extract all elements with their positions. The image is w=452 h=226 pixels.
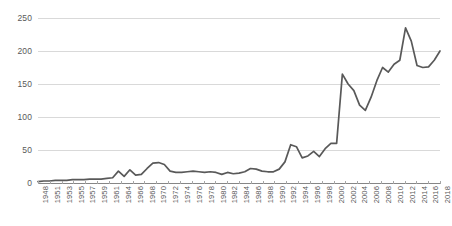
x-axis: 1948195119531955195719591961196419661968… <box>38 184 440 226</box>
x-tick-mark <box>168 181 169 184</box>
x-tick-label: 1996 <box>313 186 322 203</box>
x-tick-mark <box>251 181 252 184</box>
x-tick-mark <box>121 181 122 184</box>
x-tick-label: 1990 <box>278 186 287 203</box>
x-tick-label: 1951 <box>53 186 62 203</box>
x-tick-mark <box>369 181 370 184</box>
x-tick-label: 1955 <box>77 186 86 203</box>
plot-area <box>38 18 440 183</box>
x-tick-mark <box>381 181 382 184</box>
x-tick-label: 1957 <box>88 186 97 203</box>
x-tick-label: 1998 <box>325 186 334 203</box>
series-line <box>38 18 440 183</box>
x-tick-mark <box>357 181 358 184</box>
y-tick-label: 0 <box>27 178 32 188</box>
x-tick-mark <box>274 181 275 184</box>
x-tick-label: 1961 <box>112 186 121 203</box>
x-tick-mark <box>298 181 299 184</box>
y-tick-label: 150 <box>18 79 32 89</box>
x-tick-mark <box>345 181 346 184</box>
x-tick-label: 1976 <box>195 186 204 203</box>
x-tick-mark <box>239 181 240 184</box>
x-tick-label: 1972 <box>171 186 180 203</box>
x-tick-label: 1982 <box>230 186 239 203</box>
x-tick-label: 1992 <box>289 186 298 203</box>
x-tick-label: 1948 <box>41 186 50 203</box>
y-tick-label: 100 <box>18 112 32 122</box>
x-tick-mark <box>322 181 323 184</box>
x-tick-label: 2016 <box>431 186 440 203</box>
x-tick-mark <box>334 181 335 184</box>
x-tick-label: 1978 <box>207 186 216 203</box>
x-tick-mark <box>227 181 228 184</box>
x-tick-mark <box>38 181 39 184</box>
y-tick-label: 250 <box>18 13 32 23</box>
x-tick-mark <box>144 181 145 184</box>
x-tick-label: 1994 <box>301 186 310 203</box>
x-tick-mark <box>310 181 311 184</box>
x-tick-mark <box>405 181 406 184</box>
series-polyline <box>38 28 440 182</box>
x-tick-label: 1953 <box>65 186 74 203</box>
x-tick-label: 2012 <box>408 186 417 203</box>
x-tick-label: 2014 <box>420 186 429 203</box>
line-chart: 050100150200250 194819511953195519571959… <box>0 0 452 226</box>
x-tick-mark <box>50 181 51 184</box>
y-tick-label: 200 <box>18 46 32 56</box>
x-tick-label: 1964 <box>124 186 133 203</box>
x-tick-mark <box>215 181 216 184</box>
x-tick-mark <box>133 181 134 184</box>
x-tick-mark <box>73 181 74 184</box>
x-tick-label: 2008 <box>384 186 393 203</box>
x-tick-label: 2010 <box>396 186 405 203</box>
x-tick-mark <box>393 181 394 184</box>
x-tick-mark <box>62 181 63 184</box>
x-tick-mark <box>85 181 86 184</box>
x-tick-label: 2000 <box>337 186 346 203</box>
x-tick-mark <box>263 181 264 184</box>
x-tick-label: 2002 <box>349 186 358 203</box>
x-tick-mark <box>97 181 98 184</box>
x-tick-label: 1970 <box>159 186 168 203</box>
x-tick-mark <box>286 181 287 184</box>
x-tick-label: 2018 <box>443 186 452 203</box>
x-tick-label: 1974 <box>183 186 192 203</box>
x-tick-mark <box>440 181 441 184</box>
x-tick-mark <box>428 181 429 184</box>
x-tick-label: 1966 <box>136 186 145 203</box>
x-tick-mark <box>416 181 417 184</box>
x-tick-label: 2006 <box>372 186 381 203</box>
x-tick-label: 1984 <box>242 186 251 203</box>
y-tick-label: 50 <box>22 145 32 155</box>
x-tick-mark <box>204 181 205 184</box>
x-tick-mark <box>109 181 110 184</box>
y-axis: 050100150200250 <box>0 0 38 226</box>
x-tick-label: 1968 <box>148 186 157 203</box>
x-tick-label: 1988 <box>266 186 275 203</box>
x-tick-mark <box>180 181 181 184</box>
x-tick-mark <box>156 181 157 184</box>
x-tick-mark <box>192 181 193 184</box>
x-tick-label: 1959 <box>100 186 109 203</box>
x-tick-label: 1980 <box>219 186 228 203</box>
x-tick-label: 2004 <box>360 186 369 203</box>
x-tick-label: 1986 <box>254 186 263 203</box>
